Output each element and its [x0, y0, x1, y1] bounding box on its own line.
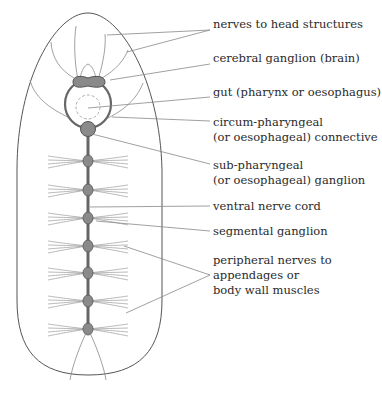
label-line: gut (pharynx or oesophagus)	[213, 85, 381, 100]
label-line: (or oesophageal) connective	[213, 130, 378, 145]
peripheral-nerve	[48, 246, 88, 249]
label-line: (or oesophageal) ganglion	[213, 173, 365, 188]
peripheral-nerve	[88, 246, 128, 249]
peripheral-nerve	[88, 161, 128, 164]
cerebral-ganglion	[73, 76, 105, 87]
segmental-ganglion	[83, 240, 93, 252]
label-ventral-cord: ventral nerve cord	[213, 199, 321, 214]
peripheral-nerve	[48, 161, 88, 164]
peripheral-nerve	[48, 301, 88, 304]
label-line: appendages or	[213, 268, 332, 283]
leader-lines	[88, 30, 210, 313]
peripheral-nerve	[48, 218, 88, 221]
segmental-ganglion	[83, 155, 93, 167]
label-line: peripheral nerves to	[213, 253, 332, 268]
segmental-ganglion	[83, 212, 93, 224]
segmental-ganglion	[83, 295, 93, 307]
label-line: segmental ganglion	[213, 224, 328, 239]
label-cerebral-ganglion: cerebral ganglion (brain)	[213, 51, 360, 66]
label-segmental-ganglion: segmental ganglion	[213, 224, 328, 239]
label-line: body wall muscles	[213, 283, 332, 298]
peripheral-nerve	[88, 329, 128, 332]
segmental-ganglion	[83, 267, 93, 279]
label-gut: gut (pharynx or oesophagus)	[213, 85, 381, 100]
peripheral-nerve	[88, 218, 128, 221]
peripheral-nerve	[48, 329, 88, 332]
label-circum-pharyngeal: circum-pharyngeal(or oesophageal) connec…	[213, 115, 378, 145]
label-peripheral-nerves: peripheral nerves toappendages orbody wa…	[213, 253, 332, 298]
peripheral-nerve	[48, 190, 88, 193]
circum-pharyngeal-ring	[65, 80, 111, 128]
label-line: nerves to head structures	[213, 17, 363, 32]
peripheral-nerve	[88, 301, 128, 304]
peripheral-nerve	[88, 190, 128, 193]
label-nerves-head: nerves to head structures	[213, 17, 363, 32]
diagram: nerves to head structurescerebral gangli…	[0, 0, 382, 416]
segmental-ganglion	[83, 184, 93, 196]
label-sub-pharyngeal: sub-pharyngeal(or oesophageal) ganglion	[213, 158, 365, 188]
label-line: cerebral ganglion (brain)	[213, 51, 360, 66]
label-line: circum-pharyngeal	[213, 115, 378, 130]
label-line: sub-pharyngeal	[213, 158, 365, 173]
segmental-ganglion	[83, 323, 93, 335]
peripheral-nerve	[88, 273, 128, 276]
peripheral-nerve	[48, 273, 88, 276]
label-line: ventral nerve cord	[213, 199, 321, 214]
